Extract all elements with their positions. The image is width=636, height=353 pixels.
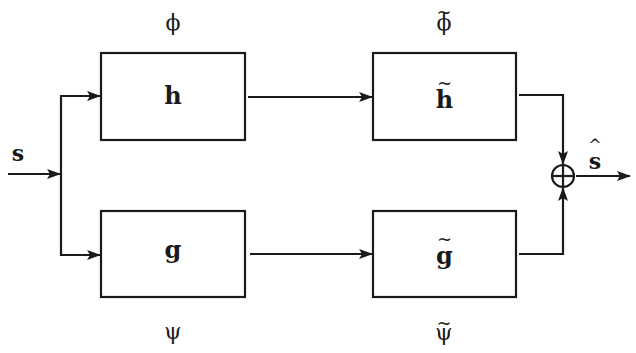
block-g-tilde-label: ~ g	[373, 244, 516, 268]
phi-tilde-label: ~ ϕ	[429, 12, 459, 34]
phi-label: ϕ	[158, 12, 188, 34]
arrow-h-tilde-to-sum	[519, 95, 563, 164]
block-g-label: g	[101, 238, 245, 262]
psi-tilde-label: ~ ψ	[429, 322, 459, 344]
block-diagram	[0, 0, 636, 353]
input-label: s	[6, 142, 30, 164]
block-h-tilde-label: ~ h	[373, 88, 516, 112]
block-h-label: h	[101, 84, 245, 108]
psi-label: ψ	[158, 321, 188, 343]
output-label: ^ s	[584, 150, 606, 172]
arrow-g-tilde-to-sum	[519, 188, 563, 254]
